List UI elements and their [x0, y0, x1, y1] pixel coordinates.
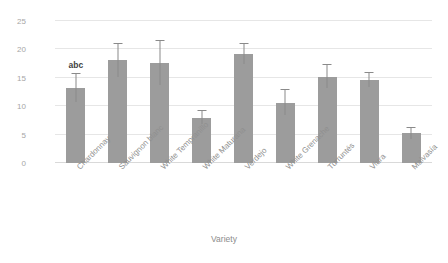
bar-series: abc	[55, 21, 432, 163]
y-tick-label: 5	[0, 130, 26, 139]
error-bar-cap-top	[155, 40, 164, 41]
error-bar-cap-top	[323, 64, 332, 65]
error-bar-cap-top	[281, 89, 290, 90]
x-axis-title: Variety	[0, 234, 448, 244]
bar-group	[264, 21, 306, 163]
y-tick-label: 20	[0, 45, 26, 54]
error-bar-cap-top	[365, 72, 374, 73]
y-tick-label: 0	[0, 159, 26, 168]
bar-annotation: abc	[69, 60, 84, 70]
bar-group: abc	[55, 21, 97, 163]
error-bar-cap-top	[197, 110, 206, 111]
error-bar	[75, 74, 76, 101]
error-bar-cap-top	[239, 43, 248, 44]
error-bar	[243, 44, 244, 64]
error-bar	[117, 44, 118, 77]
bar-group	[348, 21, 390, 163]
y-tick-label: 15	[0, 73, 26, 82]
bar	[318, 77, 337, 163]
x-axis-tick-labels: ChardonnaySauvignon blancWhite Tempranil…	[55, 165, 432, 225]
bar-chart: GSH (µg/g) abc 0510152025 ChardonnaySauv…	[0, 0, 448, 263]
error-bar	[285, 90, 286, 115]
bar	[360, 80, 379, 163]
y-tick-label: 10	[0, 102, 26, 111]
bar	[234, 54, 253, 163]
error-bar-cap-top	[407, 127, 416, 128]
error-bar	[159, 41, 160, 84]
plot-area: abc	[55, 21, 432, 163]
error-bar	[369, 73, 370, 87]
error-bar	[411, 128, 412, 138]
bar-group	[390, 21, 432, 163]
error-bar-cap-top	[113, 43, 122, 44]
error-bar	[327, 65, 328, 88]
y-tick-label: 25	[0, 17, 26, 26]
error-bar-cap-top	[71, 73, 80, 74]
